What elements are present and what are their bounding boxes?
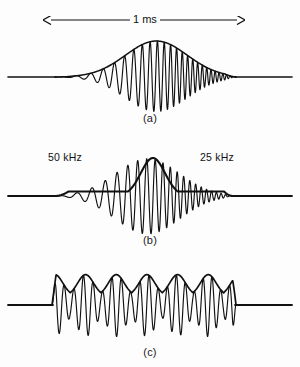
waveform-figure: 1 ms (a) 50 kHz 25 kHz (b) (c): [0, 0, 300, 367]
panel-a-caption: (a): [0, 112, 300, 124]
panel-b-caption: (b): [0, 234, 300, 246]
panel-c-caption: (c): [0, 346, 300, 358]
